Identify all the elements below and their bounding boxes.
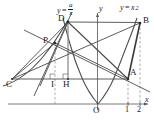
- point-label-d: D: [58, 14, 65, 23]
- parabola-eq-exponent: 2: [136, 5, 139, 11]
- segment-cb: [12, 23, 140, 79]
- x-tick-label-2: 2: [137, 106, 141, 114]
- x-axis-label: x: [145, 96, 149, 104]
- figure-canvas: [0, 0, 154, 124]
- point-label-h: H: [63, 80, 70, 89]
- parabola-eq-equals: =: [125, 4, 130, 12]
- segment-d-to-lowerleft: [40, 22, 68, 86]
- parabola-curve: [63, 18, 137, 104]
- parabola-eq-var: x: [131, 4, 135, 12]
- point-label-o: O: [93, 106, 100, 115]
- point-label-p: P: [43, 36, 48, 45]
- point-label-a: A: [130, 68, 137, 77]
- geometry-figure: y = a x y = x 2 y x D B P A C I H O 1 2: [0, 0, 154, 124]
- segment-cd: [12, 22, 68, 79]
- point-label-i: I: [51, 80, 54, 89]
- segment-pa: [55, 43, 128, 79]
- point-label-b: B: [143, 16, 149, 25]
- hyperbola-eq-denominator: x: [68, 10, 74, 17]
- segment-cp: [12, 43, 55, 79]
- y-axis-label: y: [99, 5, 103, 13]
- point-label-c: C: [6, 80, 12, 89]
- hyperbola-curve: [3, 20, 68, 86]
- parabola-equation-label: y = x 2: [120, 4, 139, 12]
- x-tick-label-1: 1: [125, 106, 129, 114]
- segment-db-horizontal: [68, 22, 141, 23]
- hyperbola-eq-fraction: a x: [68, 2, 74, 17]
- y-axis: [96, 13, 99, 110]
- parabola-eq-y: y: [120, 4, 124, 12]
